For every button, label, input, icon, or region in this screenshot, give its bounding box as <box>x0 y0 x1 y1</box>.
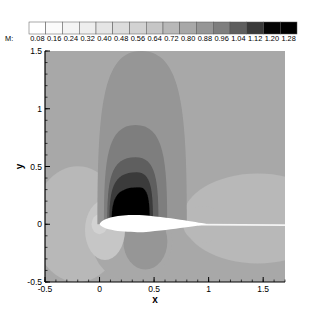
x-tick-label: 1.5 <box>257 284 269 294</box>
legend-level-label: 0.08 <box>30 34 44 43</box>
y-tick-label: -0.5 <box>27 277 42 287</box>
legend-level-label: 0.96 <box>214 34 228 43</box>
legend-level-label: 0.72 <box>164 34 178 43</box>
legend-swatch <box>63 22 80 34</box>
legend-level-label: 1.28 <box>281 34 295 43</box>
x-tick-label: 0.5 <box>148 284 160 294</box>
legend-level-label: 0.16 <box>47 34 61 43</box>
legend-swatch <box>79 22 96 34</box>
legend-swatch <box>29 22 46 34</box>
x-axis-label: x <box>152 294 158 305</box>
legend-level-label: 0.80 <box>181 34 195 43</box>
legend-level-label: 0.48 <box>114 34 128 43</box>
y-tick-label: 1 <box>37 104 42 114</box>
legend-level-label: 0.32 <box>80 34 94 43</box>
legend-swatch <box>113 22 130 34</box>
legend-swatch <box>213 22 230 34</box>
legend-swatch <box>197 22 214 34</box>
legend-swatch <box>146 22 163 34</box>
legend-level-label: 0.40 <box>97 34 111 43</box>
legend-swatch <box>163 22 180 34</box>
y-tick-label: 0.5 <box>30 162 42 172</box>
y-tick-label: 1.5 <box>30 46 42 56</box>
x-tick-label: 0 <box>97 284 102 294</box>
y-axis-label: y <box>14 163 25 169</box>
legend-level-label: 0.56 <box>131 34 145 43</box>
legend-swatch <box>280 22 297 34</box>
legend-level-label: 1.20 <box>265 34 279 43</box>
color-legend: 0.080.160.240.320.400.480.560.640.720.80… <box>5 22 297 43</box>
legend-swatch <box>230 22 247 34</box>
legend-swatch <box>264 22 281 34</box>
legend-level-label: 0.88 <box>198 34 212 43</box>
legend-swatch <box>180 22 197 34</box>
plot-area <box>33 51 309 282</box>
legend-swatch <box>96 22 113 34</box>
legend-swatch <box>247 22 264 34</box>
x-tick-label: 1 <box>206 284 211 294</box>
legend-level-label: 0.24 <box>64 34 78 43</box>
legend-level-label: 1.04 <box>231 34 245 43</box>
legend-level-label: 1.12 <box>248 34 262 43</box>
legend-variable-label: M: <box>5 34 13 43</box>
legend-level-label: 0.64 <box>147 34 161 43</box>
contour-figure: 0.080.160.240.320.400.480.560.640.720.80… <box>0 0 309 320</box>
legend-swatch <box>46 22 63 34</box>
y-tick-label: 0 <box>37 219 42 229</box>
contour-plot-svg: 0.080.160.240.320.400.480.560.640.720.80… <box>0 0 309 320</box>
legend-swatch <box>130 22 147 34</box>
